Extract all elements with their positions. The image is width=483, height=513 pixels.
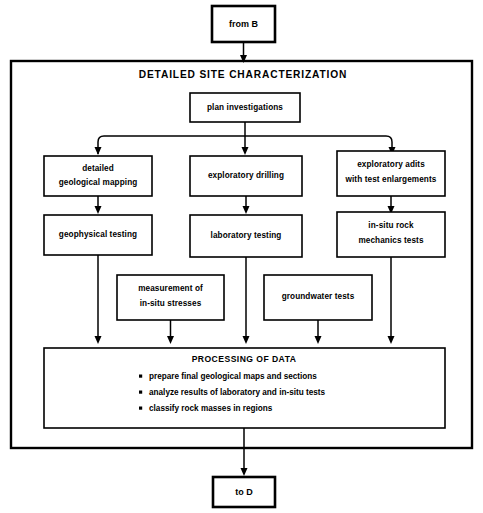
bullet-dot-icon: [139, 407, 142, 410]
terminal-to-d[interactable]: to D: [213, 477, 275, 507]
node-in-situ-rock-mechanics-tests-label-1: in-situ rock: [368, 221, 414, 230]
terminal-from-b-label: from B: [229, 19, 259, 29]
node-in-situ-rock-mechanics-tests-label-2: mechanics tests: [358, 236, 424, 245]
node-measurement-of-in-situ-stresses-label-2: in-situ stresses: [140, 299, 202, 308]
node-detailed-geological-mapping[interactable]: detailed geological mapping: [44, 156, 152, 196]
node-measurement-of-in-situ-stresses[interactable]: measurement of in-situ stresses: [117, 275, 224, 320]
bullet-dot-icon: [139, 391, 142, 394]
node-in-situ-rock-mechanics-tests-box: [337, 212, 445, 257]
terminal-from-b[interactable]: from B: [212, 6, 275, 42]
processing-list-item: prepare final geological maps and sectio…: [139, 372, 317, 381]
frame-title: DETAILED SITE CHARACTERIZATION: [139, 69, 348, 80]
node-laboratory-testing-label: laboratory testing: [211, 231, 282, 240]
bullet-dot-icon: [139, 375, 142, 378]
node-groundwater-tests[interactable]: groundwater tests: [264, 275, 372, 320]
node-geophysical-testing-label: geophysical testing: [59, 230, 137, 239]
terminal-to-d-label: to D: [235, 487, 253, 497]
node-exploratory-adits-label-2: with test enlargements: [345, 175, 437, 184]
node-detailed-geological-mapping-box: [44, 156, 152, 196]
node-exploratory-adits-label-1: exploratory adits: [357, 160, 425, 169]
node-detailed-geological-mapping-label-1: detailed: [82, 164, 114, 173]
node-plan-investigations[interactable]: plan investigations: [190, 93, 300, 122]
connector-plan-branch-bus: [95, 122, 396, 155]
processing-list-item: analyze results of laboratory and in-sit…: [139, 388, 326, 397]
node-processing-of-data[interactable]: PROCESSING OF DATA prepare final geologi…: [44, 348, 445, 428]
flowchart-canvas: from B DETAILED SITE CHARACTERIZATION pl…: [0, 0, 483, 513]
node-exploratory-drilling-label: exploratory drilling: [208, 171, 284, 180]
processing-item-label: classify rock masses in regions: [149, 404, 273, 413]
node-geophysical-testing[interactable]: geophysical testing: [44, 215, 152, 255]
connector-processing-to-tod: [241, 428, 248, 476]
processing-item-label: analyze results of laboratory and in-sit…: [149, 388, 326, 397]
node-measurement-of-in-situ-stresses-box: [117, 275, 224, 320]
node-laboratory-testing[interactable]: laboratory testing: [190, 215, 302, 257]
node-measurement-of-in-situ-stresses-label-1: measurement of: [138, 284, 203, 293]
node-exploratory-adits-box: [337, 151, 445, 196]
processing-of-data-title: PROCESSING OF DATA: [192, 354, 297, 364]
node-in-situ-rock-mechanics-tests[interactable]: in-situ rock mechanics tests: [337, 212, 445, 257]
node-exploratory-drilling[interactable]: exploratory drilling: [190, 156, 302, 196]
processing-item-label: prepare final geological maps and sectio…: [149, 372, 317, 381]
node-exploratory-adits[interactable]: exploratory adits with test enlargements: [337, 151, 445, 196]
node-detailed-geological-mapping-label-2: geological mapping: [59, 178, 138, 187]
node-plan-investigations-label: plan investigations: [207, 103, 283, 112]
processing-list-item: classify rock masses in regions: [139, 404, 273, 413]
node-groundwater-tests-label: groundwater tests: [282, 292, 355, 301]
